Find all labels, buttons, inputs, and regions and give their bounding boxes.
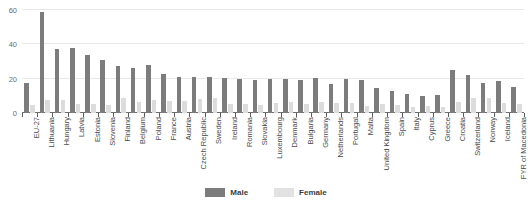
x-axis-label: Slovenia	[109, 117, 117, 146]
x-axis-label: Denmark	[291, 117, 299, 147]
bar-female	[487, 98, 492, 113]
bar-female	[350, 103, 355, 113]
bar-male	[222, 78, 227, 113]
bar-female	[426, 106, 431, 113]
x-axis-label: Slovakia	[261, 117, 269, 145]
bar-male	[344, 79, 349, 113]
bar-female	[106, 105, 111, 113]
x-axis-label: Spain	[398, 117, 406, 136]
x-axis-label: Romania	[246, 117, 254, 147]
x-axis-label: Germany	[322, 117, 330, 148]
bar-male	[253, 80, 258, 113]
bar-group	[509, 10, 524, 113]
bar-group	[372, 10, 387, 113]
bar-group	[448, 10, 463, 113]
bar-male	[496, 81, 501, 113]
bar-group	[357, 10, 372, 113]
bar-group	[418, 10, 433, 113]
x-axis-label: Greece	[444, 117, 452, 142]
bar-male	[131, 68, 136, 113]
x-axis-label: Hungary	[63, 117, 71, 145]
bar-female	[502, 103, 507, 113]
bar-female	[121, 98, 126, 113]
x-axis-label: Netherlands	[337, 117, 345, 157]
bar-female	[243, 104, 248, 113]
y-axis: 0204060	[0, 10, 20, 113]
x-axis-label: Bulgaria	[307, 117, 315, 145]
bar-male	[511, 87, 516, 113]
bar-male	[192, 77, 197, 113]
bar-male	[237, 79, 242, 113]
x-axis-label: FYR of Macedonia	[520, 117, 528, 179]
bar-group	[235, 10, 250, 113]
bar-female	[198, 99, 203, 113]
bar-group	[281, 10, 296, 113]
bar-male	[313, 78, 318, 113]
bar-group	[128, 10, 143, 113]
bar-group	[68, 10, 83, 113]
y-tick-label: 60	[9, 6, 17, 15]
bar-male	[146, 65, 151, 113]
bars-layer	[22, 10, 524, 113]
bar-group	[205, 10, 220, 113]
x-axis-label: Sweden	[215, 117, 223, 144]
x-axis-label: Norway	[489, 117, 497, 142]
bar-group	[311, 10, 326, 113]
bar-male	[374, 88, 379, 113]
bar-male	[481, 83, 486, 113]
bar-chart: 0204060 EU-27LithuaniaHungaryLatviaEston…	[0, 0, 532, 209]
bar-female	[76, 104, 81, 113]
legend-label-male: Male	[230, 188, 248, 197]
x-axis-label: Belgium	[139, 117, 147, 144]
bar-male	[24, 83, 29, 113]
x-axis-label: Portugal	[352, 117, 360, 145]
bar-male	[298, 80, 303, 113]
bar-group	[159, 10, 174, 113]
legend-swatch-male-icon	[205, 188, 225, 197]
y-tick-label: 20	[9, 74, 17, 83]
x-axis-label: Cyprus	[428, 117, 436, 141]
bar-male	[420, 96, 425, 113]
bar-male	[405, 94, 410, 113]
bar-group	[52, 10, 67, 113]
x-axis-label: Austria	[185, 117, 193, 140]
x-axis-label: France	[170, 117, 178, 140]
bar-female	[213, 98, 218, 113]
bar-group	[478, 10, 493, 113]
bar-group	[387, 10, 402, 113]
bar-female	[137, 102, 142, 113]
bar-group	[189, 10, 204, 113]
bar-female	[258, 105, 263, 113]
bar-female	[152, 100, 157, 113]
bar-female	[61, 100, 66, 113]
bar-male	[466, 75, 471, 113]
bar-group	[22, 10, 37, 113]
bar-male	[268, 79, 273, 113]
bar-group	[174, 10, 189, 113]
bar-female	[319, 102, 324, 113]
bar-male	[359, 80, 364, 113]
legend-item-female: Female	[274, 188, 327, 197]
bar-female	[456, 102, 461, 113]
x-axis-label: Lithuania	[48, 117, 56, 147]
chart-legend: Male Female	[0, 188, 532, 197]
bar-male	[100, 60, 105, 113]
bar-female	[91, 104, 96, 113]
bar-male	[55, 49, 60, 113]
x-axis-label: Finland	[124, 117, 132, 142]
bar-group	[220, 10, 235, 113]
x-axis-label: Iceland	[504, 117, 512, 141]
bar-female	[365, 106, 370, 113]
x-axis-label: Estonia	[94, 117, 102, 142]
bar-group	[265, 10, 280, 113]
bar-female	[228, 104, 233, 113]
bar-group	[113, 10, 128, 113]
y-tick-label: 0	[13, 109, 17, 118]
bar-male	[207, 77, 212, 113]
bar-group	[463, 10, 478, 113]
bar-female	[471, 98, 476, 113]
bar-group	[144, 10, 159, 113]
x-axis-label: EU-27	[33, 117, 41, 138]
x-axis-label: Latvia	[78, 117, 86, 137]
bar-group	[296, 10, 311, 113]
